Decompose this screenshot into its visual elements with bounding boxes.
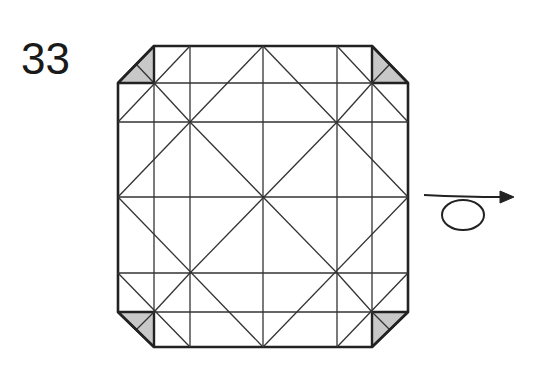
turn-over-arrow-icon: [424, 191, 514, 230]
origami-diagram: [0, 0, 545, 369]
